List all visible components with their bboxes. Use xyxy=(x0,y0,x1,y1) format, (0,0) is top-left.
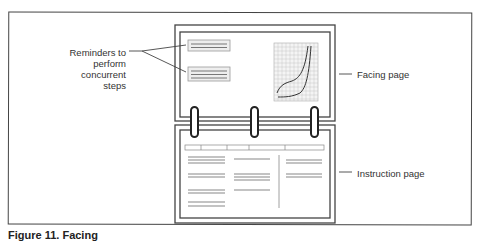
instruction-page xyxy=(175,125,335,223)
graph-grid xyxy=(274,43,318,101)
facing-page-callout: Facing page xyxy=(357,69,409,80)
figure-caption: Figure 11. Facing xyxy=(8,229,98,241)
instruction-page-callout: Instruction page xyxy=(357,168,425,179)
ring-icon xyxy=(311,107,318,137)
reminder-box-2 xyxy=(188,67,230,81)
ring-icon xyxy=(251,107,258,137)
reminders-callout: Reminders to perform concurrent steps xyxy=(56,47,126,91)
reminders-line-1: Reminders to xyxy=(56,47,126,58)
reminders-line-2: perform xyxy=(56,58,126,69)
reminders-line-3: concurrent steps xyxy=(56,69,126,91)
instruction-header-row xyxy=(185,145,324,150)
reminder-box-1 xyxy=(188,40,230,51)
ring-icon xyxy=(191,107,198,137)
